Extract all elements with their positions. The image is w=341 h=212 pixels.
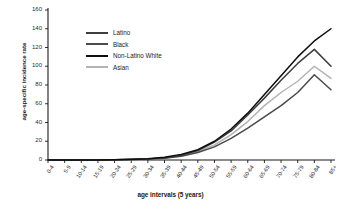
series-line-asian: [48, 66, 331, 160]
chart-legend: LatinoBlackNon-Latino WhiteAsian: [86, 27, 162, 73]
legend-color-swatch: [86, 43, 108, 45]
legend-label: Black: [113, 41, 128, 48]
plot-area: [0, 0, 341, 212]
legend-label: Latino: [113, 29, 130, 36]
legend-color-swatch: [86, 55, 108, 57]
legend-label: Asian: [113, 64, 129, 71]
legend-item[interactable]: Black: [86, 39, 162, 51]
legend-color-swatch: [86, 66, 108, 68]
legend-label: Non-Latino White: [113, 52, 162, 59]
incidence-rate-line-chart: age-specific incidence rate age interval…: [0, 0, 341, 212]
legend-color-swatch: [86, 32, 108, 34]
legend-item[interactable]: Latino: [86, 27, 162, 39]
legend-item[interactable]: Non-Latino White: [86, 50, 162, 62]
legend-item[interactable]: Asian: [86, 62, 162, 74]
